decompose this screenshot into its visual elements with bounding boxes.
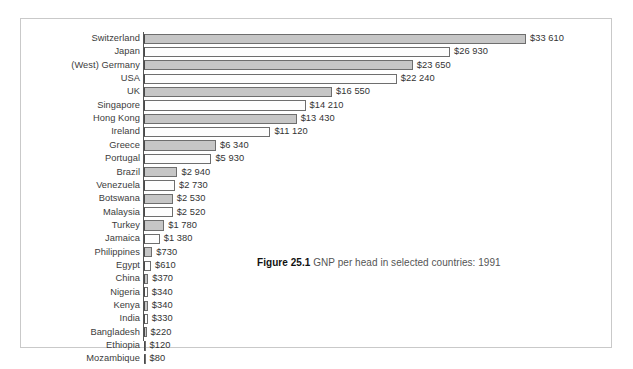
- bar-value-label: $330: [152, 312, 173, 325]
- category-label: Kenya: [113, 299, 140, 312]
- category-label: Malaysia: [103, 206, 140, 219]
- bar-track: [144, 112, 526, 125]
- bar-row: Greece$6 340: [21, 139, 613, 152]
- bar: [144, 154, 211, 164]
- bar-value-label: $33 610: [530, 32, 564, 45]
- bar-track: [144, 272, 526, 285]
- bar-row: Kenya$340: [21, 299, 613, 312]
- category-label: (West) Germany: [71, 59, 140, 72]
- category-label: Bangladesh: [90, 326, 140, 339]
- bar-value-label: $22 240: [401, 72, 435, 85]
- bar-value-label: $11 120: [274, 125, 307, 138]
- category-label: China: [115, 272, 140, 285]
- category-label: Singapore: [97, 99, 140, 112]
- bar: [144, 180, 175, 190]
- category-label: Nigeria: [110, 286, 140, 299]
- bar-value-label: $2 730: [179, 179, 208, 192]
- bar: [144, 167, 177, 177]
- bar-track: [144, 286, 526, 299]
- bar-row: Ethiopia$120: [21, 339, 613, 352]
- category-label: Egypt: [116, 259, 140, 272]
- category-label: Switzerland: [91, 32, 140, 45]
- bar-row: Botswana$2 530: [21, 192, 613, 205]
- bar-value-label: $730: [156, 246, 177, 259]
- bar: [144, 207, 173, 217]
- bar-track: [144, 139, 526, 152]
- category-label: Jamaica: [105, 232, 140, 245]
- bar: [144, 60, 413, 70]
- category-label: UK: [127, 85, 140, 98]
- bar-value-label: $23 650: [417, 59, 451, 72]
- bar-value-label: $370: [152, 272, 173, 285]
- bar-value-label: $2 530: [177, 192, 206, 205]
- category-label: Ireland: [111, 125, 140, 138]
- bar-row: Japan$26 930: [21, 45, 613, 58]
- bar: [144, 327, 147, 337]
- bar-row: (West) Germany$23 650: [21, 59, 613, 72]
- category-label: Portugal: [105, 152, 140, 165]
- category-label: India: [120, 312, 140, 325]
- bar-row: Nigeria$340: [21, 286, 613, 299]
- category-label: Japan: [114, 45, 140, 58]
- bar: [144, 247, 152, 257]
- bar-row: Portugal$5 930: [21, 152, 613, 165]
- bar-row: Switzerland$33 610: [21, 32, 613, 45]
- gnp-bar-chart: Switzerland$33 610Japan$26 930(West) Ger…: [21, 19, 613, 349]
- bar-row: Jamaica$1 380: [21, 232, 613, 245]
- bar-value-label: $1 380: [164, 232, 193, 245]
- figure-caption-text: GNP per head in selected countries: 1991: [313, 257, 501, 268]
- bar-track: [144, 152, 526, 165]
- bar-value-label: $80: [150, 352, 166, 365]
- category-label: Turkey: [112, 219, 140, 232]
- bar: [144, 87, 332, 97]
- bar: [144, 274, 148, 284]
- bar-row: China$370: [21, 272, 613, 285]
- bar: [144, 47, 450, 57]
- category-label: Ethiopia: [106, 339, 140, 352]
- category-label: Greece: [109, 139, 140, 152]
- bar-track: [144, 299, 526, 312]
- bar-track: [144, 352, 526, 365]
- bar-value-label: $120: [150, 339, 171, 352]
- bar-track: [144, 32, 526, 45]
- bar-value-label: $2 940: [181, 166, 210, 179]
- bar: [144, 341, 146, 351]
- bar-value-label: $1 780: [168, 219, 197, 232]
- category-label: Philippines: [94, 246, 140, 259]
- bar-value-label: $220: [151, 326, 172, 339]
- bar: [144, 100, 306, 110]
- bar-row: Venezuela$2 730: [21, 179, 613, 192]
- bar-row: Brazil$2 940: [21, 166, 613, 179]
- bar-value-label: $26 930: [454, 45, 488, 58]
- figure-caption: Figure 25.1 GNP per head in selected cou…: [257, 257, 501, 268]
- bar-track: [144, 219, 526, 232]
- bar: [144, 127, 270, 137]
- bar-value-label: $6 340: [220, 139, 249, 152]
- bar: [144, 34, 526, 44]
- bar-value-label: $2 520: [177, 206, 206, 219]
- category-label: USA: [121, 72, 140, 85]
- bar-track: [144, 326, 526, 339]
- bar-row: USA$22 240: [21, 72, 613, 85]
- bar: [144, 261, 151, 271]
- bar-track: [144, 232, 526, 245]
- category-label: Hong Kong: [93, 112, 140, 125]
- bar-row: India$330: [21, 312, 613, 325]
- bar-value-label: $13 430: [301, 112, 335, 125]
- bar: [144, 140, 216, 150]
- category-label: Botswana: [99, 192, 140, 205]
- bar-track: [144, 72, 526, 85]
- bar: [144, 74, 397, 84]
- bar: [144, 220, 164, 230]
- category-label: Mozambique: [86, 352, 140, 365]
- figure-number: Figure 25.1: [257, 257, 310, 268]
- bar-value-label: $14 210: [310, 99, 344, 112]
- bar-row: Hong Kong$13 430: [21, 112, 613, 125]
- bar-row: Bangladesh$220: [21, 326, 613, 339]
- bar-track: [144, 125, 526, 138]
- bar-track: [144, 339, 526, 352]
- bar-row: Ireland$11 120: [21, 125, 613, 138]
- bar-row: Singapore$14 210: [21, 99, 613, 112]
- category-label: Brazil: [116, 166, 140, 179]
- bar-value-label: $340: [152, 286, 173, 299]
